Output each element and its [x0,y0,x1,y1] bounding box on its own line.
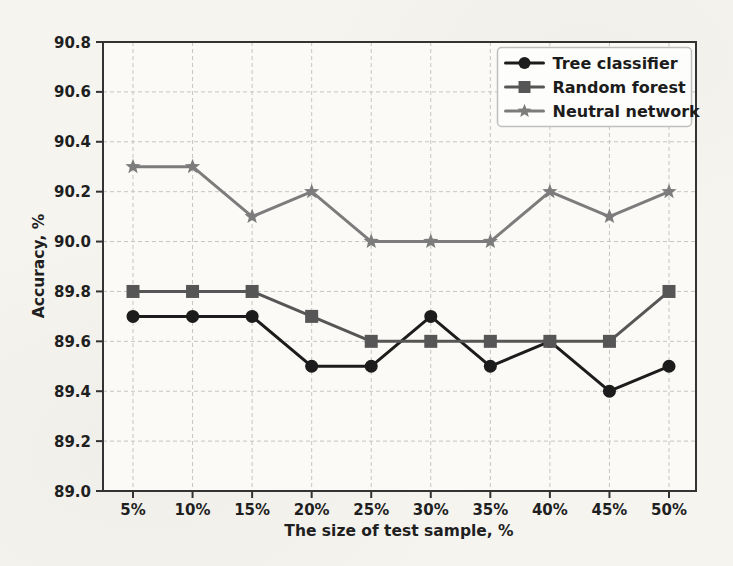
y-tick-label: 90.6 [54,83,91,101]
square-marker-icon [305,310,318,323]
square-marker-icon [186,285,199,298]
x-tick-label: 50% [651,501,687,519]
x-tick-label: 10% [175,501,211,519]
y-tick-label: 89.4 [54,383,91,401]
legend: Tree classifierRandom forestNeutral netw… [498,48,701,127]
legend-label: Neutral network [553,102,701,121]
y-tick-label: 90.4 [54,133,91,151]
circle-marker-icon [603,385,616,398]
square-marker-icon [424,335,437,348]
square-marker-icon [519,81,531,93]
x-tick-label: 20% [294,501,330,519]
circle-marker-icon [186,310,199,323]
y-tick-label: 89.2 [54,433,91,451]
x-axis-label: The size of test sample, % [284,522,514,540]
circle-marker-icon [519,57,531,69]
square-marker-icon [543,335,556,348]
circle-marker-icon [484,360,497,373]
x-tick-label: 30% [413,501,449,519]
x-tick-label: 45% [591,501,627,519]
y-tick-label: 89.8 [54,283,91,301]
x-tick-label: 40% [532,501,568,519]
legend-label: Tree classifier [553,54,678,73]
circle-marker-icon [127,310,140,323]
y-axis-label: Accuracy, % [30,213,48,318]
legend-label: Random forest [553,78,686,97]
y-tick-label: 89.0 [54,483,91,501]
square-marker-icon [484,335,497,348]
x-tick-label: 25% [353,501,389,519]
scanned-document-page: 89.089.289.489.689.890.090.290.490.690.8… [0,0,733,566]
circle-marker-icon [424,310,437,323]
circle-marker-icon [365,360,378,373]
y-tick-label: 90.0 [54,233,91,251]
y-tick-label: 89.6 [54,333,91,351]
square-marker-icon [365,335,378,348]
accuracy-line-chart: 89.089.289.489.689.890.090.290.490.690.8… [0,0,733,566]
y-tick-label: 90.8 [54,34,91,52]
square-marker-icon [663,285,676,298]
square-marker-icon [246,285,259,298]
circle-marker-icon [246,310,259,323]
square-marker-icon [603,335,616,348]
x-tick-label: 5% [120,501,145,519]
x-tick-label: 35% [472,501,508,519]
y-tick-label: 90.2 [54,183,91,201]
circle-marker-icon [305,360,318,373]
circle-marker-icon [663,360,676,373]
x-tick-label: 15% [234,501,270,519]
square-marker-icon [127,285,140,298]
